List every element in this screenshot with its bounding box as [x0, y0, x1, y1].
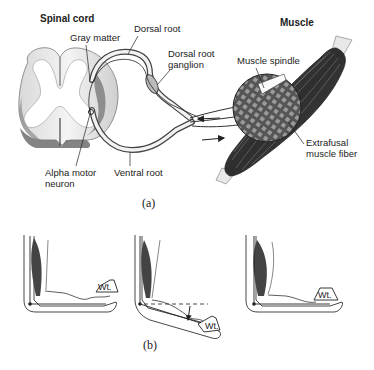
- muscle-spindle-inset: [233, 74, 301, 142]
- elbow-joint: [28, 302, 32, 306]
- label-alpha-motor-neuron-2: neuron: [45, 178, 75, 189]
- label-muscle-spindle: Muscle spindle: [237, 55, 300, 66]
- label-dorsal-root-ganglion-1: Dorsal root: [168, 48, 215, 59]
- efferent-arrow: [202, 138, 224, 140]
- caption-a: (a): [142, 196, 155, 210]
- label-muscle: Muscle: [280, 17, 314, 28]
- triceps-line: [152, 240, 160, 298]
- forearm-top: [268, 295, 316, 302]
- stretch-reflex-diagram: Spinal cord Gray matter Dorsal root Dors…: [0, 0, 374, 370]
- label-spinal-cord: Spinal cord: [40, 13, 94, 24]
- leader-ganglion: [158, 70, 170, 84]
- elbow-joint: [252, 302, 256, 306]
- weight-label: Wt.: [98, 282, 112, 292]
- biceps-muscle: [141, 240, 151, 298]
- biceps-muscle: [253, 240, 266, 296]
- panel-a: Spinal cord Gray matter Dorsal root Dors…: [19, 13, 357, 210]
- label-extrafusal-1: Extrafusal: [306, 137, 348, 148]
- label-gray-matter: Gray matter: [70, 32, 120, 43]
- arm-stage-2: Wt.: [135, 235, 221, 339]
- triceps-line: [268, 242, 274, 294]
- arm-stage-3: Wt.: [246, 235, 343, 312]
- biceps-muscle: [31, 238, 41, 296]
- label-dorsal-root: Dorsal root: [134, 23, 181, 34]
- elbow-joint: [138, 302, 142, 306]
- caption-b: (b): [143, 338, 157, 352]
- triceps-line: [46, 240, 48, 290]
- label-extrafusal-2: muscle fiber: [306, 148, 357, 159]
- panel-b: Wt. Wt. Wt. (b): [24, 235, 343, 352]
- label-dorsal-root-ganglion-2: ganglion: [168, 59, 204, 70]
- label-alpha-motor-neuron-1: Alpha motor: [45, 167, 96, 178]
- arm-stage-1: Wt.: [24, 235, 118, 312]
- weight-label: Wt.: [205, 321, 219, 331]
- label-ventral-root: Ventral root: [114, 167, 163, 178]
- weight-label: Wt.: [318, 290, 332, 300]
